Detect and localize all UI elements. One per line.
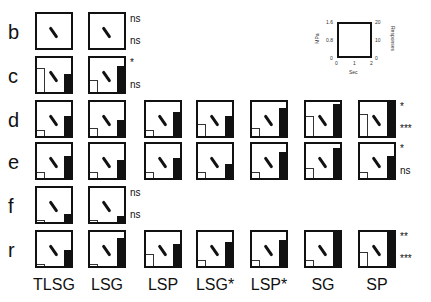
response-bar: [117, 160, 124, 178]
pressure-trace: [264, 114, 274, 126]
inset-right-axis-label: Responses: [390, 26, 395, 51]
significance-marker: ***: [400, 124, 412, 134]
response-bar: [64, 156, 71, 178]
response-bar: [225, 164, 232, 178]
pressure-bar: [360, 114, 368, 136]
response-bar: [117, 66, 124, 92]
pressure-trace: [102, 70, 112, 82]
inset-right-tick-mid: 10: [375, 38, 381, 43]
panel-c-lsg: [88, 56, 126, 94]
response-bar: [279, 152, 286, 178]
pressure-bar: [360, 172, 368, 178]
response-bar: [387, 230, 394, 266]
pressure-trace: [210, 156, 220, 168]
panel-r-lsp-star: [250, 230, 288, 268]
panel-d-sg: [304, 100, 342, 138]
pressure-bar: [252, 172, 260, 178]
pressure-trace: [210, 244, 220, 256]
panel-r-lsg-star: [196, 230, 234, 268]
pressure-trace: [102, 26, 112, 38]
pressure-trace: [102, 200, 112, 212]
inset-right-tick-top: 20: [375, 20, 381, 25]
panel-f-tlsg: [35, 186, 73, 224]
inset-left-tick-bottom: 0: [330, 56, 333, 61]
pressure-bar: [306, 168, 314, 178]
inset-x-tick-2: 2: [370, 61, 373, 66]
inset-left-tick-mid: 0.8: [326, 38, 333, 43]
panel-r-sp: [358, 230, 396, 268]
panel-e-sg: [304, 142, 342, 180]
significance-marker: ns: [130, 14, 141, 24]
pressure-trace: [102, 244, 112, 256]
pressure-trace: [158, 114, 168, 126]
pressure-bar: [146, 254, 154, 266]
pressure-trace: [102, 114, 112, 126]
panel-e-lsp: [144, 142, 182, 180]
pressure-bar: [252, 260, 260, 266]
pressure-bar: [90, 128, 98, 136]
pressure-trace: [102, 156, 112, 168]
panel-r-lsp: [144, 230, 182, 268]
pressure-bar: [360, 252, 368, 266]
row-label: r: [8, 240, 15, 260]
pressure-trace: [372, 156, 382, 168]
pressure-trace: [372, 244, 382, 256]
significance-marker: *: [400, 102, 404, 112]
pressure-bar: [90, 264, 98, 266]
significance-marker: *: [130, 58, 134, 68]
response-bar: [333, 104, 340, 136]
panel-d-sp: [358, 100, 396, 138]
response-bar: [117, 120, 124, 136]
pressure-trace: [264, 156, 274, 168]
panel-r-sg: [304, 230, 342, 268]
row-label: e: [8, 152, 19, 172]
column-label: SG: [298, 276, 348, 294]
pressure-bar: [252, 128, 260, 136]
response-bar: [279, 240, 286, 266]
response-bar: [117, 238, 124, 266]
response-bar: [279, 108, 286, 136]
pressure-trace: [49, 26, 59, 38]
panel-e-lsg-star: [196, 142, 234, 180]
response-bar: [387, 100, 394, 136]
pressure-bar: [198, 124, 206, 136]
response-bar: [64, 250, 71, 266]
row-label: c: [8, 66, 18, 86]
panel-e-sp: [358, 142, 396, 180]
pressure-trace: [49, 200, 59, 212]
panel-r-lsg: [88, 230, 126, 268]
column-label: TLSG: [29, 276, 79, 294]
inset-x-tick-1: 1: [353, 61, 356, 66]
pressure-trace: [158, 244, 168, 256]
panel-c-tlsg: [35, 56, 73, 94]
response-bar: [173, 158, 180, 178]
pressure-bar: [306, 260, 314, 266]
column-label: LSP: [138, 276, 188, 294]
panel-d-lsp-star: [250, 100, 288, 138]
panel-d-lsg: [88, 100, 126, 138]
column-label: LSP*: [244, 276, 294, 294]
pressure-bar: [37, 130, 45, 136]
inset-left-tick-top: 1.6: [326, 20, 333, 25]
column-label: SP: [352, 276, 402, 294]
pressure-trace: [264, 244, 274, 256]
pressure-bar: [306, 116, 314, 136]
response-bar: [225, 116, 232, 136]
pressure-trace: [318, 244, 328, 256]
panel-e-lsp-star: [250, 142, 288, 180]
inset-x-axis-label: Sec: [349, 70, 358, 75]
pressure-bar: [37, 264, 45, 266]
response-bar: [117, 216, 124, 222]
pressure-trace: [210, 114, 220, 126]
response-bar: [64, 214, 71, 222]
column-label: LSG*: [190, 276, 240, 294]
inset-x-tick-0: 0: [335, 61, 338, 66]
pressure-bar: [198, 260, 206, 266]
significance-marker: ns: [130, 80, 141, 90]
panel-b-lsg: [88, 12, 126, 50]
pressure-trace: [49, 114, 59, 126]
pressure-bar: [37, 172, 45, 178]
pressure-bar: [37, 68, 45, 92]
pressure-bar: [146, 130, 154, 136]
response-bar: [333, 148, 340, 178]
